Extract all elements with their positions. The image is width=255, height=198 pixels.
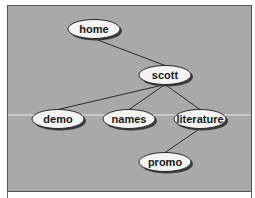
node-label: demo <box>43 113 73 125</box>
node-label: names <box>112 113 147 125</box>
node-label: literature <box>176 113 223 125</box>
node-label: home <box>79 23 108 35</box>
node-label: scott <box>152 69 179 81</box>
diagram-panel <box>8 6 252 192</box>
directory-tree-diagram: homescottdemonamesliteraturepromo <box>0 0 255 198</box>
node-label: promo <box>148 156 183 168</box>
